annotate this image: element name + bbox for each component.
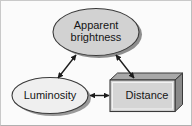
- luminosity-ellipse: [12, 78, 88, 114]
- distance-box-top-face: [110, 73, 183, 80]
- diagram-canvas: [0, 0, 192, 126]
- apparent-brightness-ellipse: [53, 9, 139, 56]
- node-luminosity: [12, 78, 91, 117]
- node-apparent-brightness: [53, 9, 142, 59]
- diagram-figure: Apparent brightness Luminosity Distance: [0, 0, 192, 126]
- node-distance: [110, 73, 183, 112]
- distance-box-front-face: [110, 80, 175, 112]
- connector-brightness-luminosity: [58, 55, 76, 78]
